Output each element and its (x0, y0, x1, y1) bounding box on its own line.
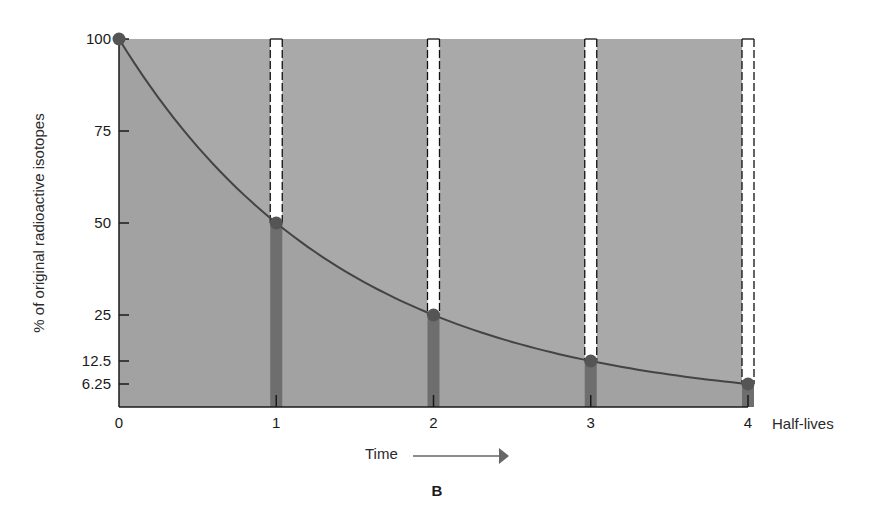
x-tick-label-3: 3 (587, 414, 595, 431)
data-point-0 (113, 33, 126, 46)
decayed-bar-fill (270, 39, 282, 223)
y-tick-label-1: 75 (94, 122, 111, 139)
x-axis-title: Half-lives (772, 415, 834, 432)
decayed-bar-fill (585, 39, 597, 361)
decayed-bar-fill (428, 39, 440, 315)
half-life-chart: 10075502512.56.2501234 % of original rad… (0, 0, 879, 518)
time-label: Time (365, 445, 398, 462)
y-axis-title: % of original radioactive isotopes (30, 113, 47, 332)
remaining-bar-1 (270, 223, 282, 407)
y-tick-label-3: 25 (94, 306, 111, 323)
y-tick-label-5: 6.25 (82, 375, 111, 392)
y-tick-label-2: 50 (94, 214, 111, 231)
data-point-3 (584, 355, 597, 368)
data-point-1 (270, 217, 283, 230)
y-tick-label-0: 100 (86, 30, 111, 47)
decayed-bar-2 (428, 39, 440, 315)
decayed-bar-1 (270, 39, 282, 223)
decayed-bar-4 (742, 39, 754, 384)
x-tick-label-2: 2 (429, 414, 437, 431)
data-point-4 (742, 378, 755, 391)
data-point-2 (427, 309, 440, 322)
x-tick-label-0: 0 (115, 414, 123, 431)
panel-label: B (432, 482, 443, 499)
decayed-bar-3 (585, 39, 597, 361)
decayed-bar-fill (742, 39, 754, 384)
time-arrow-icon (413, 448, 509, 464)
x-tick-label-4: 4 (744, 414, 752, 431)
y-tick-label-4: 12.5 (82, 352, 111, 369)
remaining-bar-2 (428, 315, 440, 407)
x-tick-label-1: 1 (272, 414, 280, 431)
